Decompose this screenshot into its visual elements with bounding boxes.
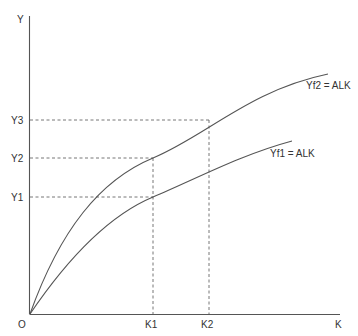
origin-label: O bbox=[18, 319, 26, 330]
y1-label: Y1 bbox=[11, 192, 24, 203]
k1-label: K1 bbox=[145, 319, 158, 330]
y3-label: Y3 bbox=[11, 115, 24, 126]
yf1-curve-label: Yf1 = ALK bbox=[270, 148, 315, 159]
yf1-curve bbox=[30, 141, 292, 314]
production-function-diagram: Y K O Y3 Y2 Y1 K1 K2 Yf2 = ALK Yf1 = ALK bbox=[0, 0, 358, 336]
x-axis-label: K bbox=[335, 319, 342, 330]
reference-lines bbox=[30, 120, 209, 314]
y-axis-label: Y bbox=[17, 14, 24, 25]
yf2-curve bbox=[30, 74, 328, 314]
y2-label: Y2 bbox=[11, 153, 24, 164]
yf2-curve-label: Yf2 = ALK bbox=[306, 80, 351, 91]
k2-label: K2 bbox=[201, 319, 214, 330]
